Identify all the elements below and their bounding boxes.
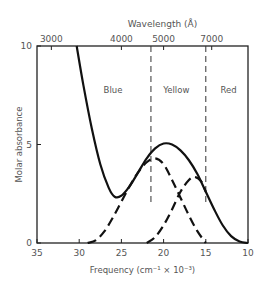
top-tick-label: 3000 xyxy=(40,34,63,44)
absorbance-chart: 35302520151005103000400050007000Waveleng… xyxy=(0,0,268,284)
y-tick-label: 5 xyxy=(26,140,32,150)
region-label-yellow: Yellow xyxy=(162,85,189,95)
y-tick-label: 0 xyxy=(26,238,32,248)
series-0-curve xyxy=(77,46,248,243)
x-tick-label: 10 xyxy=(242,248,254,258)
x-axis-label: Frequency (cm⁻¹ × 10⁻³) xyxy=(90,265,195,275)
top-tick-label: 4000 xyxy=(110,34,133,44)
x-tick-label: 15 xyxy=(200,248,211,258)
region-label-red: Red xyxy=(221,85,237,95)
x-tick-label: 20 xyxy=(158,248,170,258)
region-label-blue: Blue xyxy=(104,85,123,95)
x-tick-label: 35 xyxy=(31,248,42,258)
series-1-curve xyxy=(88,158,206,243)
y-tick-label: 10 xyxy=(21,41,33,51)
top-tick-label: 5000 xyxy=(152,34,175,44)
top-tick-label: 7000 xyxy=(200,34,223,44)
x-tick-label: 30 xyxy=(73,248,85,258)
top-axis-label: Wavelength (Å) xyxy=(128,18,197,29)
y-axis-label: Molar absorbance xyxy=(14,107,24,183)
x-tick-label: 25 xyxy=(116,248,127,258)
